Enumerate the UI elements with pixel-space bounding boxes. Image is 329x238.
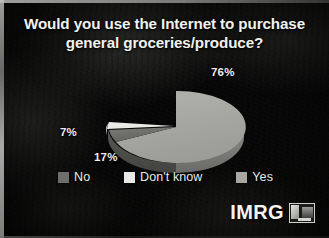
imrg-logo-shape-base bbox=[298, 218, 311, 221]
chart-legend: No Don't know Yes bbox=[58, 170, 273, 184]
pie-chart-svg bbox=[100, 80, 252, 158]
imrg-logo-shape-left bbox=[291, 205, 299, 219]
imrg-branding: IMRG bbox=[230, 201, 315, 224]
imrg-logo-mark-icon bbox=[289, 203, 315, 223]
legend-swatch-no-icon bbox=[58, 172, 69, 183]
chart-title-line-2: general groceries/produce? bbox=[8, 33, 321, 52]
imrg-wordmark: IMRG bbox=[230, 201, 284, 224]
imrg-logo-shape-right bbox=[302, 207, 313, 218]
legend-item-dont-know[interactable]: Don't know bbox=[124, 170, 202, 184]
pie-label-dont-know: 7% bbox=[60, 126, 77, 138]
legend-label-yes: Yes bbox=[252, 170, 273, 184]
pie-chart bbox=[100, 80, 252, 158]
legend-swatch-dont-know-icon bbox=[124, 172, 135, 183]
legend-item-yes[interactable]: Yes bbox=[236, 170, 273, 184]
slide-frame-left-edge bbox=[0, 0, 4, 238]
slide-frame-bottom-edge bbox=[0, 236, 329, 238]
chart-title: Would you use the Internet to purchase g… bbox=[8, 14, 321, 52]
legend-label-no: No bbox=[74, 170, 90, 184]
pie-label-no: 17% bbox=[94, 151, 118, 163]
legend-swatch-yes-icon bbox=[236, 172, 247, 183]
legend-item-no[interactable]: No bbox=[58, 170, 90, 184]
chart-title-line-1: Would you use the Internet to purchase bbox=[24, 15, 305, 32]
pie-label-yes: 76% bbox=[211, 66, 235, 78]
survey-chart-slide: Would you use the Internet to purchase g… bbox=[0, 0, 329, 238]
slide-frame-top-edge bbox=[0, 0, 329, 3]
legend-label-dont-know: Don't know bbox=[140, 170, 202, 184]
